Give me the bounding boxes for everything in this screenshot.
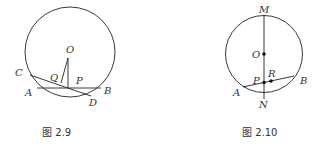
- label-o: O: [66, 44, 74, 55]
- caption-2-10: 图 2.10: [242, 127, 277, 138]
- label-r: R: [267, 68, 276, 79]
- label-b: B: [103, 85, 111, 96]
- label-o: O: [252, 49, 260, 60]
- point-r: [269, 79, 273, 83]
- figure-2-9-labels: O Q P C A B D 图 2.9: [15, 44, 111, 138]
- label-p: P: [75, 75, 83, 86]
- label-d: D: [88, 97, 97, 108]
- label-a: A: [232, 87, 240, 98]
- point-p: [262, 81, 266, 85]
- label-n: N: [258, 99, 269, 110]
- label-m: M: [258, 4, 270, 15]
- label-c: C: [15, 67, 23, 78]
- label-q: Q: [50, 72, 58, 83]
- caption-2-9: 图 2.9: [42, 127, 71, 138]
- segment-oq: [61, 58, 68, 83]
- label-a: A: [24, 87, 32, 98]
- point-o: [262, 52, 266, 56]
- diagram-canvas: O Q P C A B D 图 2.9 M O P R A B N 图 2.10: [0, 0, 327, 144]
- label-p: P: [252, 75, 260, 86]
- figure-2-10-labels: M O P R A B N 图 2.10: [232, 4, 307, 138]
- label-b: B: [299, 75, 307, 86]
